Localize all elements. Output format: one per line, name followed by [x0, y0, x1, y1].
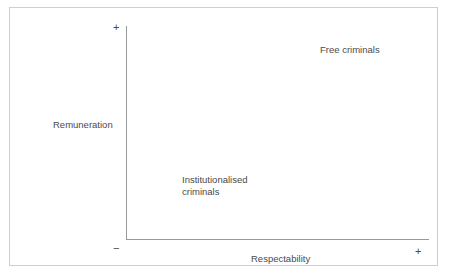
x-axis-negative-sign: −: [113, 243, 119, 254]
x-axis-positive-sign: +: [415, 246, 421, 257]
y-axis-line: [126, 26, 127, 240]
y-axis-positive-sign: +: [113, 22, 119, 33]
quadrant-label-lower-left: Institutionalised criminals: [182, 174, 247, 198]
figure-frame: + − + Remuneration Respectability Free c…: [9, 7, 438, 266]
x-axis-title: Respectability: [251, 253, 310, 265]
quadrant-label-upper-right: Free criminals: [320, 44, 380, 56]
y-axis-title: Remuneration: [53, 119, 113, 131]
x-axis-line: [126, 239, 429, 240]
quadrant-diagram: + − + Remuneration Respectability Free c…: [0, 0, 456, 277]
